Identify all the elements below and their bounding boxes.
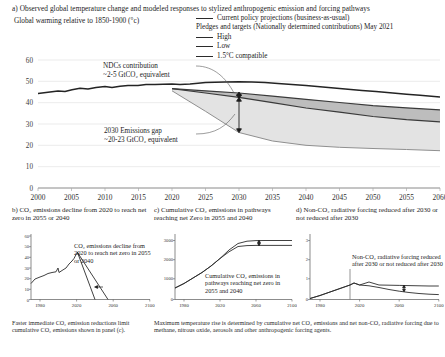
panel-b-ytick-labels: 60 50 40 30 20 10 0 bbox=[24, 234, 29, 303]
svg-text:2060: 2060 bbox=[433, 193, 445, 202]
panel-a-band-emissions-gap bbox=[172, 89, 440, 151]
svg-text:2045: 2045 bbox=[332, 193, 347, 202]
svg-text:2050: 2050 bbox=[366, 193, 381, 202]
panel-b-line-historical bbox=[31, 253, 79, 284]
legend-label-high: High bbox=[217, 33, 231, 42]
panel-d-inner-annotation: Non-CO₂ radiative forcing reduced after … bbox=[352, 253, 445, 268]
svg-text:0: 0 bbox=[29, 185, 33, 193]
svg-text:40: 40 bbox=[26, 99, 34, 107]
panel-b-footnote: Faster immediate CO₂ emission reductions… bbox=[12, 320, 150, 335]
svg-text:2000: 2000 bbox=[164, 257, 174, 262]
svg-text:2030: 2030 bbox=[232, 193, 247, 202]
legend-item-high: High bbox=[196, 33, 393, 42]
panel-a-leader-ndc bbox=[196, 66, 234, 93]
svg-text:30: 30 bbox=[24, 266, 29, 271]
legend-label-current-policy: Current policy projections (business-as-… bbox=[217, 14, 349, 23]
panel-b-title: b) CO₂ emissions decline from 2020 to re… bbox=[12, 206, 152, 222]
legend-label-pledges: Pledges and targets (Nationally determin… bbox=[196, 23, 393, 32]
svg-text:2020: 2020 bbox=[165, 193, 180, 202]
svg-text:2010: 2010 bbox=[98, 193, 113, 202]
panel-a-xtick-labels: 2000 2005 2010 2015 2020 2025 2030 2035 … bbox=[31, 193, 445, 202]
svg-text:2025: 2025 bbox=[198, 193, 213, 202]
annotation-emissions-gap: 2030 Emissions gap ~20-23 GtCO₂ equivale… bbox=[104, 127, 178, 145]
figure-root: a) Observed global temperature change an… bbox=[0, 0, 445, 357]
panel-b-xtick-labels: 1980 2020 2060 2100 bbox=[35, 303, 155, 308]
svg-text:50: 50 bbox=[24, 244, 29, 249]
legend-line-swatch-current-policy bbox=[196, 18, 213, 19]
svg-text:2005: 2005 bbox=[64, 193, 79, 202]
svg-text:2060: 2060 bbox=[108, 303, 118, 308]
svg-text:30: 30 bbox=[26, 121, 34, 129]
panel-a-chart: 60 50 40 30 20 10 0 2000 2005 bbox=[0, 48, 445, 208]
svg-text:2000: 2000 bbox=[31, 193, 46, 202]
svg-text:60: 60 bbox=[24, 234, 29, 239]
svg-text:20: 20 bbox=[26, 142, 34, 150]
svg-text:2020: 2020 bbox=[72, 303, 82, 308]
svg-text:2055: 2055 bbox=[399, 193, 414, 202]
panel-d-footnote: Maximum temperature rise is determined b… bbox=[154, 320, 442, 335]
panel-c-title: c) Cumulative CO₂ emissions in pathways … bbox=[154, 206, 294, 222]
annotation-ndc-contribution: NDCs contribution ~2-5 GtCO₂ equivalent bbox=[103, 62, 170, 80]
panel-a-ytick-labels: 60 50 40 30 20 10 0 bbox=[26, 57, 34, 193]
panel-d-line-not-reduced bbox=[310, 282, 439, 299]
svg-text:40: 40 bbox=[24, 255, 29, 260]
legend-line-swatch-high bbox=[196, 37, 213, 38]
svg-text:0: 0 bbox=[27, 298, 30, 303]
svg-text:3000: 3000 bbox=[164, 238, 174, 243]
figure-subtitle: Global warming relative to 1850-1900 (°c… bbox=[14, 16, 139, 25]
svg-text:10: 10 bbox=[24, 287, 29, 292]
annotation-ndc-line2: ~2-5 GtCO₂ equivalent bbox=[103, 71, 170, 80]
svg-text:2100: 2100 bbox=[434, 303, 444, 308]
svg-text:10: 10 bbox=[26, 163, 34, 171]
panel-d-chart: 3 2 1 0 1980 2020 2060 2100 bbox=[294, 230, 444, 318]
panel-d-xtick-labels: 1980 2020 2060 2100 bbox=[315, 303, 444, 308]
panel-d-line-reduced bbox=[310, 283, 439, 299]
panel-d-ytick-labels: 3 2 1 0 bbox=[306, 238, 309, 302]
svg-text:2020: 2020 bbox=[215, 303, 225, 308]
panel-b-inner-annotation: CO₂ emissions decline from 2020 to reach… bbox=[74, 242, 154, 264]
panel-c-xtick-labels: 1980 2020 2060 2100 bbox=[179, 303, 297, 308]
svg-text:20: 20 bbox=[24, 276, 29, 281]
panel-d-title: d) Non-CO₂ radiative forcing reduced aft… bbox=[296, 206, 445, 222]
svg-text:60: 60 bbox=[26, 57, 34, 65]
annotation-gap-line2: ~20-23 GtCO₂ equivalent bbox=[104, 136, 178, 145]
svg-text:2060: 2060 bbox=[251, 303, 261, 308]
svg-text:1980: 1980 bbox=[35, 303, 45, 308]
svg-text:2040: 2040 bbox=[299, 193, 314, 202]
panel-c-inner-annotation: Cumulative CO₂ emissions in pathways rea… bbox=[205, 272, 290, 294]
annotation-ndc-line1: NDCs contribution bbox=[103, 62, 170, 71]
svg-text:1980: 1980 bbox=[179, 303, 189, 308]
svg-text:1980: 1980 bbox=[315, 303, 325, 308]
svg-text:2060: 2060 bbox=[394, 303, 404, 308]
panel-c-ytick-labels: 3000 2000 1000 0 bbox=[164, 238, 174, 302]
svg-text:2035: 2035 bbox=[265, 193, 280, 202]
svg-text:2015: 2015 bbox=[131, 193, 146, 202]
figure-title: a) Observed global temperature change an… bbox=[12, 4, 370, 13]
annotation-gap-line1: 2030 Emissions gap bbox=[104, 127, 178, 136]
legend-item-current-policy: Current policy projections (business-as-… bbox=[196, 14, 393, 23]
svg-text:2020: 2020 bbox=[355, 303, 365, 308]
legend-item-pledges: Pledges and targets (Nationally determin… bbox=[196, 23, 393, 32]
svg-text:1000: 1000 bbox=[164, 276, 174, 281]
svg-text:50: 50 bbox=[26, 78, 34, 86]
panel-d-arrow-marker bbox=[403, 285, 406, 292]
